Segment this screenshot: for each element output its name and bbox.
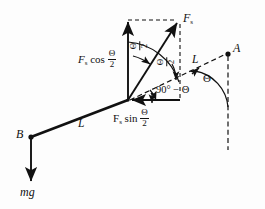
point-A-dot bbox=[225, 51, 230, 56]
half-angle-label-right: Θ 2 bbox=[156, 58, 176, 67]
length-label-right: L bbox=[192, 54, 198, 66]
weight-label: mg bbox=[20, 186, 35, 198]
diagram-canvas bbox=[0, 0, 265, 209]
point-B-label: B bbox=[16, 128, 23, 140]
sin-component-label: Fs sin Θ 2 bbox=[113, 108, 149, 128]
vertex-dot bbox=[126, 98, 129, 101]
half-angle-denominator: 2 bbox=[108, 60, 117, 69]
point-B-dot bbox=[28, 134, 33, 139]
half-angle-numerator: Θ bbox=[108, 49, 117, 58]
cos-component-label: Fs cos Θ 2 bbox=[78, 49, 116, 69]
half-angle-denominator: 2 bbox=[140, 119, 149, 128]
point-A-label: A bbox=[233, 42, 240, 54]
physics-diagram: Fs Fs cos Θ 2 Fs sin Θ 2 Θ 2 Θ 2 90 bbox=[0, 0, 265, 209]
half-angle-arc-left bbox=[133, 56, 150, 64]
length-label-left: L bbox=[78, 118, 84, 130]
complement-angle-label: 90° − Θ bbox=[156, 85, 189, 96]
theta-angle-arc bbox=[195, 71, 228, 107]
theta-angle-label: Θ bbox=[203, 73, 211, 84]
half-angle-numerator: Θ bbox=[140, 108, 149, 117]
half-angle-label-left: Θ 2 bbox=[129, 42, 149, 51]
spring-force-label: Fs bbox=[183, 12, 193, 26]
